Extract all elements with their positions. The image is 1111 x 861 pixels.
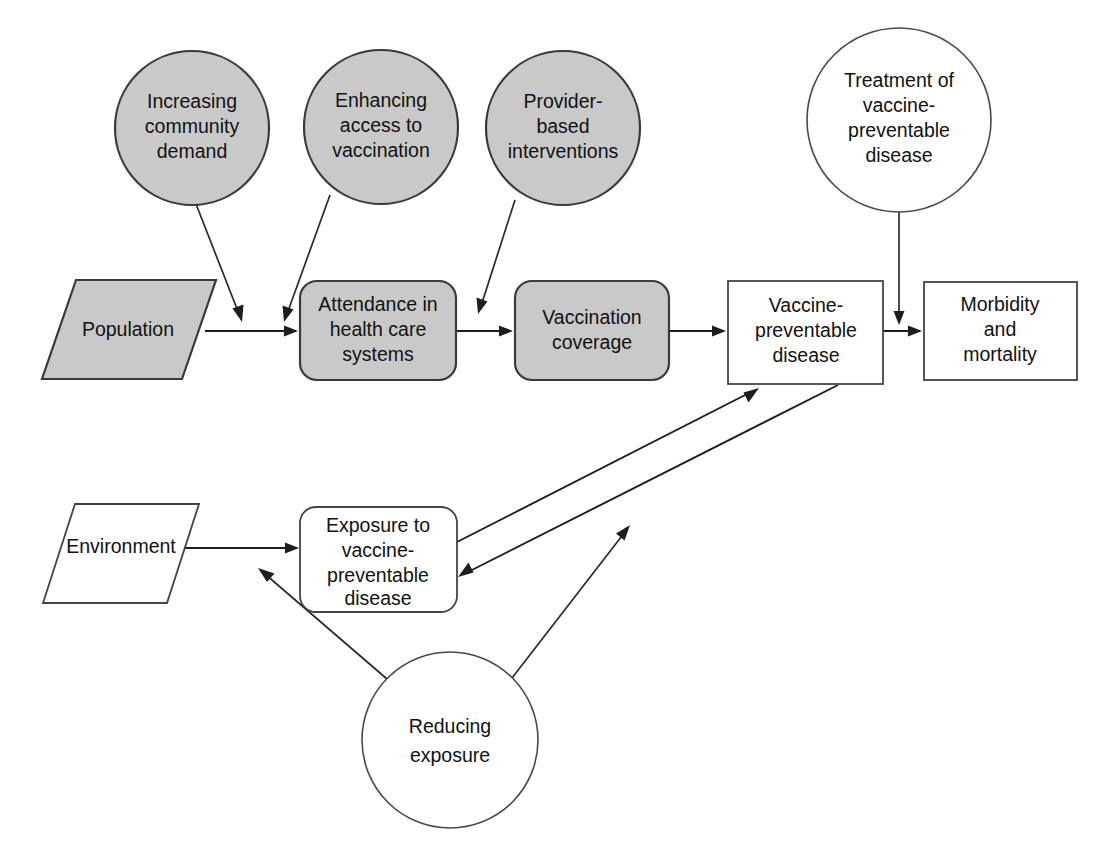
node-provider-based-interventions[interactable]: Provider- based interventions — [486, 51, 640, 205]
vpd-line-2: preventable — [755, 319, 857, 341]
attendance-line-3: systems — [342, 343, 414, 365]
reducing-exposure-line-2: exposure — [410, 744, 490, 766]
population-label: Population — [82, 318, 174, 340]
morbidity-line-3: mortality — [963, 343, 1037, 365]
edge-attendance-to-coverage — [457, 326, 513, 337]
node-reducing-exposure[interactable]: Reducing exposure — [362, 652, 538, 828]
edge-vpd-to-morbidity — [883, 326, 922, 337]
node-increasing-community-demand[interactable]: Increasing community demand — [115, 51, 269, 205]
node-exposure-to-vaccine-preventable-disease[interactable]: Exposure to vaccine- preventable disease — [300, 507, 457, 612]
exposure-line-3: preventable — [327, 564, 429, 586]
node-treatment-of-vaccine-preventable-disease[interactable]: Treatment of vaccine- preventable diseas… — [807, 28, 991, 212]
exposure-line-2: vaccine- — [342, 539, 415, 561]
edge-reducing-exposure-to-exposure-vpd-flow — [512, 525, 630, 678]
increasing-community-demand-line-3: demand — [157, 140, 227, 162]
edge-vpd-to-exposure — [458, 385, 838, 577]
morbidity-line-1: Morbidity — [960, 293, 1039, 315]
enhancing-access-line-3: vaccination — [332, 139, 430, 161]
morbidity-line-2: and — [984, 318, 1017, 340]
treatment-of-vpd-line-2: vaccine- — [863, 94, 936, 116]
node-enhancing-access-to-vaccination[interactable]: Enhancing access to vaccination — [304, 50, 458, 204]
exposure-line-4: disease — [344, 587, 411, 609]
edge-coverage-to-vpd — [669, 326, 726, 337]
treatment-of-vpd-line-1: Treatment of — [844, 69, 954, 91]
edge-environment-to-exposure — [185, 543, 299, 554]
node-attendance-in-health-care-systems[interactable]: Attendance in health care systems — [300, 281, 456, 380]
treatment-of-vpd-line-3: preventable — [848, 119, 950, 141]
reducing-exposure-line-1: Reducing — [409, 715, 491, 737]
node-population[interactable]: Population — [42, 280, 216, 379]
diagram-canvas: Increasing community demand Enhancing ac… — [0, 0, 1111, 861]
node-morbidity-and-mortality[interactable]: Morbidity and mortality — [924, 282, 1077, 380]
vpd-line-1: Vaccine- — [769, 294, 843, 316]
attendance-line-2: health care — [330, 318, 426, 340]
treatment-of-vpd-line-4: disease — [865, 144, 932, 166]
provider-based-line-2: based — [536, 115, 589, 137]
increasing-community-demand-line-2: community — [145, 115, 240, 137]
node-vaccine-preventable-disease[interactable]: Vaccine- preventable disease — [728, 281, 883, 384]
enhancing-access-line-2: access to — [340, 114, 423, 136]
node-vaccination-coverage[interactable]: Vaccination coverage — [515, 281, 669, 380]
causal-framework-diagram: Increasing community demand Enhancing ac… — [0, 0, 1111, 861]
exposure-line-1: Exposure to — [326, 514, 430, 536]
increasing-community-demand-line-1: Increasing — [147, 90, 237, 112]
environment-label: Environment — [66, 535, 176, 557]
node-environment[interactable]: Environment — [43, 504, 199, 603]
edge-treatment-to-vpd-morbidity-flow — [894, 212, 905, 325]
provider-based-line-1: Provider- — [523, 90, 602, 112]
provider-based-line-3: interventions — [508, 140, 619, 162]
vpd-line-3: disease — [772, 344, 839, 366]
edge-provider-based-to-flow — [477, 200, 516, 314]
attendance-line-1: Attendance in — [318, 293, 437, 315]
vaccination-coverage-line-2: coverage — [552, 331, 632, 353]
enhancing-access-line-1: Enhancing — [335, 89, 427, 111]
edge-exposure-to-vpd — [455, 388, 759, 543]
edge-population-to-attendance — [205, 326, 298, 337]
vaccination-coverage-line-1: Vaccination — [542, 306, 641, 328]
